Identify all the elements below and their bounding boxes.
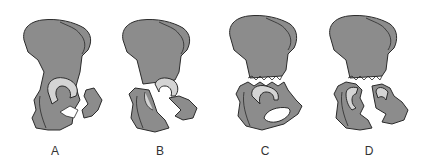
panel-label-a: A (2, 144, 108, 158)
pelvis-diagram-b (107, 0, 213, 140)
pelvis-diagram-c (212, 0, 318, 140)
panel-label-c: C (212, 144, 318, 158)
pelvis-diagram-a (2, 0, 108, 140)
panel-a: A (2, 0, 108, 167)
panel-label-b: B (107, 144, 213, 158)
panel-d: D (316, 0, 422, 167)
pelvis-diagram-d (316, 0, 422, 140)
panel-b: B (107, 0, 213, 167)
panel-c: C (212, 0, 318, 167)
panel-label-d: D (316, 144, 422, 158)
